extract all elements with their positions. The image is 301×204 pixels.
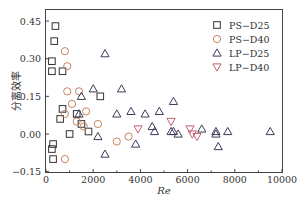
x-tick-label: 10000 [267,174,297,185]
x-tick-label: 6000 [176,174,200,185]
y-tick-label: 0.45 [20,16,41,27]
legend-label: LP−D25 [229,48,269,59]
x-axis-label: Re [156,185,171,196]
x-tick-label: 4000 [128,174,152,185]
y-tick-label: 0.00 [20,129,41,140]
x-tick-label: 8000 [223,174,247,185]
legend-label: PS−D25 [229,20,270,31]
y-tick-label: 0.30 [20,53,41,64]
y-axis-label: 分离效率 [10,71,22,111]
x-tick-label: 0 [43,174,49,185]
y-tick-label: 0.15 [20,91,41,102]
scatter-chart: 0200040006000800010000−0.150.000.150.300… [0,0,301,204]
legend-label: PS−D40 [229,34,270,45]
legend-label: LP−D40 [229,62,269,73]
y-tick-label: −0.15 [12,166,41,177]
x-tick-label: 2000 [81,174,105,185]
